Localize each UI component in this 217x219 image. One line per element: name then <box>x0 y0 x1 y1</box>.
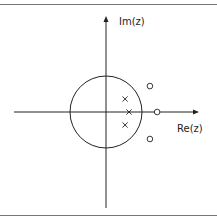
imaginary-axis-arrowhead <box>104 16 109 22</box>
zero-marker <box>147 83 153 89</box>
zeros-group <box>147 83 160 142</box>
zero-marker <box>154 109 160 115</box>
real-axis-label: Re(z) <box>177 123 203 134</box>
zero-marker <box>147 136 153 142</box>
pole-zero-diagram: Im(z) Re(z) <box>0 0 217 219</box>
real-axis-arrowhead <box>193 110 199 115</box>
pole-marker <box>122 122 127 127</box>
imaginary-axis-label: Im(z) <box>119 16 145 27</box>
pole-marker <box>122 96 127 101</box>
